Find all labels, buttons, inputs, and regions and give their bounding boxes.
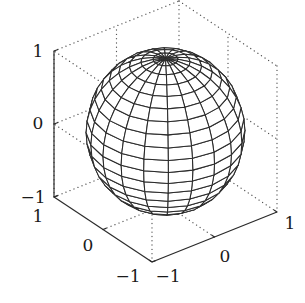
y-tick-label-0: 0	[83, 237, 94, 254]
sphere-plot	[0, 0, 305, 303]
x-tick-label-0: 0	[220, 248, 231, 265]
sphere-mesh	[86, 48, 245, 215]
y-tick-label-1: 1	[33, 208, 44, 225]
x-tick-label-neg1: −1	[155, 268, 180, 285]
z-tick-label-1: 1	[33, 43, 44, 60]
y-tick-label-neg1: −1	[115, 268, 140, 285]
z-tick-label-0: 0	[33, 115, 44, 132]
x-tick-label-1: 1	[285, 215, 296, 232]
z-tick-label-neg1: −1	[20, 189, 45, 206]
